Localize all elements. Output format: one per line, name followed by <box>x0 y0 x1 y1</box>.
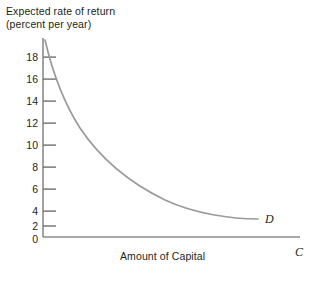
investment-demand-chart: Expected rate of return (percent per yea… <box>0 0 314 281</box>
y-tick-label-8: 8 <box>32 161 38 173</box>
x-axis-title: Amount of Capital <box>120 250 205 263</box>
plot-area: 18 16 14 12 10 8 6 4 2 0 D C <box>0 0 314 281</box>
y-axis-tick-labels: 18 16 14 12 10 8 6 4 2 0 <box>26 51 38 245</box>
y-tick-label-14: 14 <box>26 95 38 107</box>
x-axis-end-symbol: C <box>295 245 304 259</box>
y-tick-label-2: 2 <box>32 220 38 232</box>
demand-curve-line <box>45 40 258 219</box>
y-tick-label-12: 12 <box>26 117 38 129</box>
y-tick-label-18: 18 <box>26 51 38 63</box>
y-axis-ticks <box>43 57 56 226</box>
y-tick-label-10: 10 <box>26 139 38 151</box>
demand-curve-label: D <box>264 212 274 226</box>
y-tick-label-0: 0 <box>32 233 38 245</box>
y-tick-label-4: 4 <box>32 205 38 217</box>
y-tick-label-6: 6 <box>32 183 38 195</box>
y-tick-label-16: 16 <box>26 73 38 85</box>
